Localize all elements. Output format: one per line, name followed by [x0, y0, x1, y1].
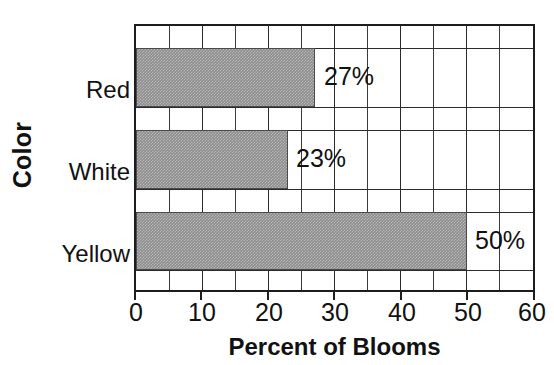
chart-figure: Color Red White Yellow 27% 23% 50% — [0, 0, 554, 365]
bar-value-yellow: 50% — [475, 228, 525, 253]
row-rule-2 — [136, 107, 533, 108]
y-axis-tick-labels: Red White Yellow — [10, 24, 130, 292]
plot-area: 27% 23% 50% — [134, 24, 535, 292]
x-tick-label-40: 40 — [388, 300, 416, 325]
bar-yellow[interactable] — [136, 212, 467, 270]
x-axis-tick-labels: 0 10 20 30 40 50 60 — [134, 300, 535, 332]
bar-red[interactable] — [136, 48, 315, 107]
x-tick-label-60: 60 — [518, 300, 546, 325]
y-tick-label-red: Red — [10, 78, 130, 102]
bar-value-red: 27% — [324, 64, 374, 89]
x-tick-label-20: 20 — [255, 300, 283, 325]
x-tick-label-0: 0 — [129, 300, 143, 325]
x-tick-label-30: 30 — [321, 300, 349, 325]
y-tick-label-white: White — [10, 160, 130, 184]
y-tick-label-yellow: Yellow — [10, 242, 130, 266]
row-rule-6 — [136, 270, 533, 271]
x-tick-label-50: 50 — [454, 300, 482, 325]
x-tick-label-10: 10 — [188, 300, 216, 325]
bar-white[interactable] — [136, 130, 288, 189]
x-axis-title: Percent of Blooms — [134, 333, 535, 361]
bar-value-white: 23% — [296, 146, 346, 171]
row-rule-4 — [136, 189, 533, 190]
